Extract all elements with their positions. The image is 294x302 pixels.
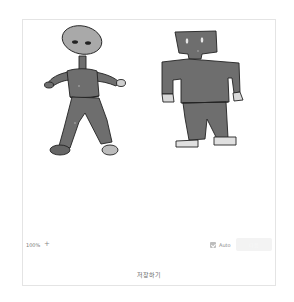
next-button[interactable]: 다음 [236, 238, 272, 251]
save-button[interactable]: 저장하기 [23, 270, 275, 279]
zoom-level: 100% [26, 242, 40, 248]
round-head-figure [45, 22, 126, 155]
zoom-in-button[interactable]: + [44, 240, 50, 248]
drawing-canvas[interactable] [23, 20, 275, 220]
drawing-panel: 100% + Auto 다음 저장하기 [22, 19, 276, 286]
auto-label: Auto [219, 242, 231, 248]
auto-checkbox[interactable] [210, 242, 216, 248]
square-head-figure [162, 31, 243, 147]
